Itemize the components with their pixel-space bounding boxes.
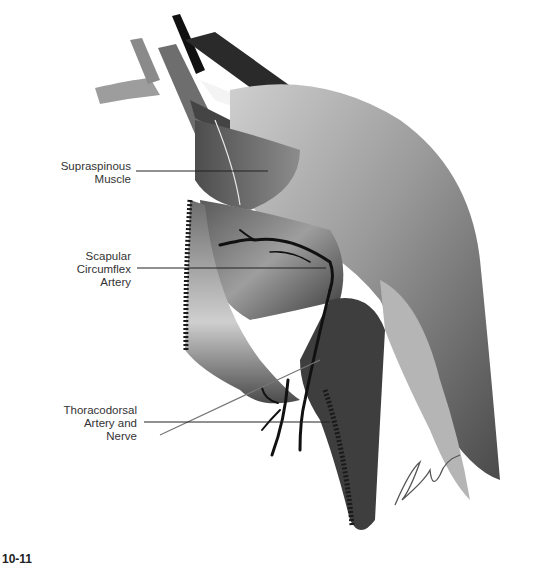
figure-caption: 10-11 [2, 552, 32, 566]
label-line: Thoracodorsal [63, 404, 137, 417]
label-line: Supraspinous [61, 160, 131, 173]
teres-major-muscle [300, 298, 385, 530]
label-line: Muscle [61, 173, 131, 186]
label-scapular-circumflex-artery: Scapular Circumflex Artery [77, 250, 131, 289]
label-line: Artery and [63, 417, 137, 430]
label-thoracodorsal-artery-nerve: Thoracodorsal Artery and Nerve [63, 404, 137, 443]
label-supraspinous-muscle: Supraspinous Muscle [61, 160, 131, 186]
label-line: Scapular [77, 250, 131, 263]
label-line: Circumflex [77, 263, 131, 276]
label-line: Nerve [63, 430, 137, 443]
label-line: Artery [77, 276, 131, 289]
